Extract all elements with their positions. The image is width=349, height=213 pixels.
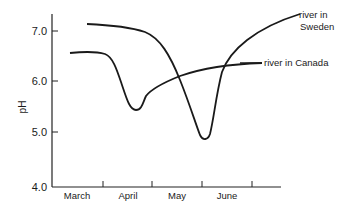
sweden-label-line2: Sweden xyxy=(300,21,334,32)
y-tick-label: 4.0 xyxy=(32,181,47,193)
y-tick-label: 6.0 xyxy=(32,75,47,87)
y-tick-label: 7.0 xyxy=(32,25,47,37)
y-tick-label: 5.0 xyxy=(32,126,47,138)
x-tick-label: June xyxy=(217,190,238,201)
sweden-label-line1: river in xyxy=(299,9,328,20)
x-tick-label: March xyxy=(64,190,90,201)
x-tick-label: May xyxy=(168,190,186,201)
canada-series-line xyxy=(70,52,262,110)
canada-label: river in Canada xyxy=(264,57,329,68)
ph-chart: 7.0 6.0 5.0 4.0 pH March April May June … xyxy=(0,0,349,213)
y-axis-label: pH xyxy=(17,101,28,114)
x-tick-label: April xyxy=(118,190,137,201)
